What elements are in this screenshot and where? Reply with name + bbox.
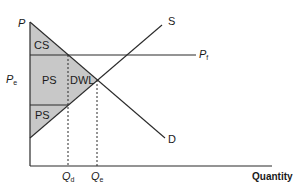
ps-upper-label: PS <box>42 75 57 86</box>
price-floor-label: Pf <box>199 49 208 61</box>
qe-label-sub: e <box>100 176 104 183</box>
qe-label-main: Q <box>91 170 100 182</box>
equilibrium-price-label: Pe <box>6 74 17 86</box>
ps-lower-label: PS <box>35 110 50 121</box>
x-axis-label: Quantity <box>252 172 293 182</box>
supply-label: S <box>168 16 175 27</box>
cs-label: CS <box>34 40 49 51</box>
qd-label-main: Q <box>62 170 71 182</box>
qd-label: Qd <box>62 171 74 183</box>
qe-label: Qe <box>91 171 103 183</box>
price-floor-label-sub: f <box>206 54 208 61</box>
dwl-label: DWL <box>70 75 94 86</box>
diagram-canvas <box>0 0 306 193</box>
demand-label: D <box>168 134 176 145</box>
qd-label-sub: d <box>71 176 75 183</box>
supply-demand-diagram: P Quantity S D Pf Pe Qd Qe CS PS DWL PS <box>0 0 306 193</box>
y-axis-label: P <box>18 18 25 29</box>
equilibrium-price-label-sub: e <box>13 79 17 86</box>
